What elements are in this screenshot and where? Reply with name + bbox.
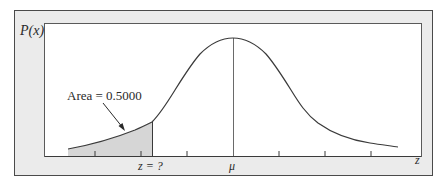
normal-distribution-figure: P(x) Area = 0.5000 z = ? μ z	[0, 0, 444, 185]
y-axis-label: P(x)	[19, 23, 44, 39]
x-axis-label: z	[414, 153, 420, 167]
area-annotation: Area = 0.5000	[67, 88, 142, 103]
z-marker-label: z = ?	[137, 159, 163, 173]
mu-label: μ	[228, 159, 235, 173]
